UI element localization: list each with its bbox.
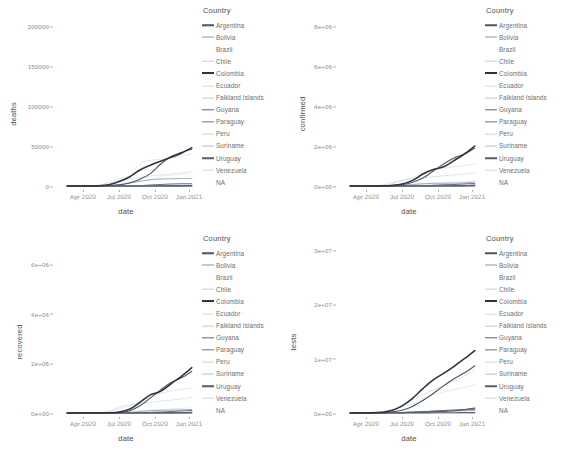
legend-item[interactable]: Bolivia	[200, 259, 283, 271]
legend-item[interactable]: Paraguay	[200, 344, 283, 356]
legend-item[interactable]: Falkland Islands	[200, 92, 283, 104]
legend-item[interactable]: Colombia	[200, 295, 283, 307]
legend-item[interactable]: Guyana	[200, 104, 283, 116]
legend-item[interactable]: Suriname	[200, 140, 283, 152]
legend-key-line-icon	[200, 259, 215, 271]
legend-item[interactable]: Chile	[483, 55, 566, 67]
legend-item[interactable]: Colombia	[483, 67, 566, 79]
legend-item[interactable]: Ecuador	[483, 79, 566, 91]
legend-item[interactable]: Chile	[483, 283, 566, 295]
x-tick-label: Apr 2020	[70, 420, 96, 428]
x-tick-mark	[472, 190, 473, 192]
legend-item[interactable]: Argentina	[483, 247, 566, 259]
legend-item-label: Colombia	[216, 70, 244, 77]
legend-title: Country	[203, 234, 283, 243]
legend-item[interactable]: NA	[200, 404, 283, 416]
x-tick-mark	[155, 417, 156, 419]
legend-item-label: Peru	[216, 130, 230, 137]
legend-item[interactable]: Venezuela	[200, 164, 283, 176]
legend-item[interactable]: Venezuela	[200, 392, 283, 404]
legend-key-line-icon	[483, 380, 498, 392]
legend-key-line-icon	[200, 67, 215, 79]
legend-item[interactable]: Suriname	[483, 368, 566, 380]
legend-item[interactable]: NA	[483, 404, 566, 416]
legend-item[interactable]: Colombia	[483, 295, 566, 307]
legend-key-line-icon	[200, 320, 215, 332]
y-tick-label: 2e+06	[314, 143, 332, 150]
legend-key-line-icon	[483, 392, 498, 404]
y-ticks-confirmed: 0e+002e+064e+066e+068e+06	[293, 12, 335, 228]
legend-item[interactable]: Brazil	[483, 43, 566, 55]
legend-item[interactable]: Paraguay	[483, 344, 566, 356]
legend-item[interactable]: Guyana	[483, 332, 566, 344]
legend-item[interactable]: Falkland Islands	[483, 320, 566, 332]
legend-item[interactable]: Argentina	[200, 19, 283, 31]
legend-item[interactable]: Argentina	[483, 19, 566, 31]
lines-recovered	[56, 242, 196, 413]
legend-item[interactable]: NA	[483, 176, 566, 188]
legend-item-label: Venezuela	[499, 395, 530, 402]
legend-item[interactable]: NA	[200, 176, 283, 188]
legend-item-label: Uruguay	[216, 155, 241, 162]
legend-item[interactable]: Bolivia	[483, 31, 566, 43]
legend-key-line-icon	[200, 176, 215, 188]
legend-confirmed: Country ArgentinaBoliviaBrazilChileColom…	[483, 6, 566, 188]
legend-item-label: Uruguay	[499, 383, 524, 390]
legend-item-label: Falkland Islands	[499, 94, 547, 101]
legend-item[interactable]: Bolivia	[200, 31, 283, 43]
legend-item[interactable]: Chile	[200, 55, 283, 67]
legend-item[interactable]: Bolivia	[483, 259, 566, 271]
legend-recovered: Country ArgentinaBoliviaBrazilChileColom…	[200, 234, 283, 416]
facet-figure: deaths 050000100000150000200000 Apr 2020…	[0, 0, 566, 455]
legend-item[interactable]: Chile	[200, 283, 283, 295]
legend-item-label: Chile	[499, 58, 514, 65]
legend-item-label: Bolivia	[216, 262, 236, 269]
legend-item[interactable]: Uruguay	[200, 152, 283, 164]
legend-item[interactable]: Ecuador	[483, 307, 566, 319]
legend-key-line-icon	[483, 283, 498, 295]
legend-key-line-icon	[200, 19, 215, 31]
legend-item-label: Uruguay	[499, 155, 524, 162]
legend-item[interactable]: Peru	[200, 128, 283, 140]
series-line	[67, 371, 192, 413]
legend-key-line-icon	[200, 295, 215, 307]
y-tick-label: 8e+06	[314, 23, 332, 30]
legend-item[interactable]: Peru	[200, 356, 283, 368]
legend-item[interactable]: Argentina	[200, 247, 283, 259]
legend-key-line-icon	[200, 392, 215, 404]
legend-item[interactable]: Peru	[483, 128, 566, 140]
legend-item[interactable]: Brazil	[483, 271, 566, 283]
legend-item[interactable]: Colombia	[200, 67, 283, 79]
legend-item[interactable]: Suriname	[200, 368, 283, 380]
legend-item[interactable]: Venezuela	[483, 164, 566, 176]
legend-item[interactable]: Guyana	[200, 332, 283, 344]
legend-item-label: Guyana	[216, 106, 239, 113]
legend-item-label: Argentina	[499, 22, 527, 29]
legend-item[interactable]: Falkland Islands	[200, 320, 283, 332]
legend-item[interactable]: Uruguay	[200, 380, 283, 392]
legend-item[interactable]: Guyana	[483, 104, 566, 116]
legend-key-line-icon	[200, 80, 215, 92]
x-tick-mark	[119, 190, 120, 192]
legend-item[interactable]: Suriname	[483, 140, 566, 152]
legend-key-line-icon	[483, 67, 498, 79]
legend-item[interactable]: Brazil	[200, 43, 283, 55]
legend-item[interactable]: Venezuela	[483, 392, 566, 404]
x-tick-label: Jul 2020	[107, 193, 131, 201]
legend-item[interactable]: Paraguay	[200, 116, 283, 128]
lines-deaths	[56, 14, 196, 186]
panel-confirmed: confirmed 0e+002e+064e+066e+068e+06 Apr …	[283, 0, 566, 228]
legend-item[interactable]: Uruguay	[483, 152, 566, 164]
legend-item[interactable]: Brazil	[200, 271, 283, 283]
legend-item[interactable]: Ecuador	[200, 307, 283, 319]
panel-tests: tests 0e+001e+072e+073e+07 Apr 2020Jul 2…	[283, 228, 566, 455]
y-tick-label: 150000	[28, 63, 49, 70]
legend-item[interactable]: Ecuador	[200, 79, 283, 91]
legend-item[interactable]: Falkland Islands	[483, 92, 566, 104]
legend-item[interactable]: Paraguay	[483, 116, 566, 128]
x-tick-label: Oct 2020	[425, 420, 451, 428]
legend-item[interactable]: Uruguay	[483, 380, 566, 392]
legend-item[interactable]: Peru	[483, 356, 566, 368]
legend-item-label: Venezuela	[499, 167, 530, 174]
x-tick-label: Apr 2020	[353, 193, 379, 201]
